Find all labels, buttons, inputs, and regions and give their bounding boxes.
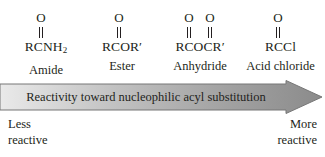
caption-more-line1: More bbox=[277, 116, 317, 132]
double-bond-icon bbox=[187, 27, 191, 38]
arrow-label: Reactivity toward nucleophilic acyl subs… bbox=[0, 80, 292, 114]
structure-amide: O RCNH2 Amide bbox=[0, 10, 92, 78]
double-bond-icon bbox=[276, 27, 280, 38]
oxygen-atom: O bbox=[205, 10, 214, 26]
amide-oxygen-row: O bbox=[0, 10, 92, 26]
anhydride-bond-row bbox=[155, 26, 245, 39]
double-bond-icon bbox=[39, 27, 43, 38]
reactivity-captions: Less reactive More reactive bbox=[0, 116, 325, 157]
ester-bond-row bbox=[80, 26, 164, 39]
amide-formula: RCNH2 bbox=[0, 39, 92, 58]
anhydride-formula-main: RCOCR bbox=[175, 39, 221, 54]
caption-less-reactive: Less reactive bbox=[8, 116, 48, 148]
acid-chloride-name: Acid chloride bbox=[236, 59, 325, 74]
reactivity-arrow: Reactivity toward nucleophilic acyl subs… bbox=[0, 80, 325, 114]
oxygen-atom: O bbox=[114, 10, 123, 26]
structure-anhydride: O O RCOCR′ Anhydride bbox=[155, 10, 245, 74]
double-bond-icon bbox=[208, 27, 212, 38]
double-bond-icon bbox=[117, 27, 121, 38]
caption-less-line1: Less bbox=[8, 116, 48, 132]
ester-formula-main: RCOR bbox=[102, 39, 139, 54]
ester-name: Ester bbox=[80, 59, 164, 74]
acid-chloride-formula: RCCl bbox=[236, 39, 325, 54]
caption-more-line2: reactive bbox=[277, 132, 317, 148]
anhydride-name: Anhydride bbox=[155, 59, 245, 74]
amide-formula-main: RCNH bbox=[25, 39, 63, 54]
caption-more-reactive: More reactive bbox=[277, 116, 317, 148]
oxygen-atom: O bbox=[273, 10, 282, 26]
amide-bond-row bbox=[0, 26, 92, 39]
oxygen-atom: O bbox=[184, 10, 193, 26]
acid-chloride-bond-row bbox=[236, 26, 325, 39]
ester-formula-prime: ′ bbox=[139, 39, 142, 54]
oxygen-atom: O bbox=[36, 10, 45, 26]
anhydride-oxygen-row: O O bbox=[155, 10, 245, 26]
anhydride-formula: RCOCR′ bbox=[155, 39, 245, 54]
caption-less-line2: reactive bbox=[8, 132, 48, 148]
amide-formula-subscript: 2 bbox=[63, 45, 68, 55]
anhydride-formula-prime: ′ bbox=[222, 39, 225, 54]
structures-row: O RCNH2 Amide O RCOR′ Ester O O bbox=[0, 0, 325, 76]
amide-name: Amide bbox=[0, 63, 92, 78]
structure-ester: O RCOR′ Ester bbox=[80, 10, 164, 74]
ester-formula: RCOR′ bbox=[80, 39, 164, 54]
acid-chloride-oxygen-row: O bbox=[236, 10, 325, 26]
structure-acid-chloride: O RCCl Acid chloride bbox=[236, 10, 325, 74]
ester-oxygen-row: O bbox=[80, 10, 164, 26]
